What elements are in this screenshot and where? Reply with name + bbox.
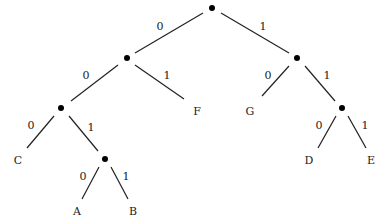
edge-bit-label: 0 xyxy=(28,119,35,132)
edge-bit-label: 1 xyxy=(260,20,267,33)
internal-node xyxy=(339,105,345,111)
tree-edge xyxy=(135,65,184,99)
edge-bit-label: 0 xyxy=(265,69,272,82)
edge-bit-label: 0 xyxy=(316,119,323,132)
edge-bit-label: 1 xyxy=(88,121,95,134)
leaf-label-C: C xyxy=(14,154,22,167)
internal-node xyxy=(209,5,215,11)
tree-edge xyxy=(71,65,118,101)
internal-node xyxy=(294,55,300,61)
tree-edge xyxy=(305,66,335,101)
leaf-label-D: D xyxy=(305,154,314,167)
edge-bit-label: 0 xyxy=(157,20,164,33)
internal-node xyxy=(102,156,108,162)
internal-node xyxy=(124,55,130,61)
internal-node xyxy=(58,105,64,111)
leaf-label-F: F xyxy=(193,105,201,118)
huffman-tree-diagram: 010101010101FGCDEAB xyxy=(0,0,380,223)
leaf-label-E: E xyxy=(367,154,375,167)
edge-bit-label: 1 xyxy=(123,170,130,183)
leaf-label-A: A xyxy=(72,205,82,218)
tree-svg: 010101010101FGCDEAB xyxy=(0,0,380,223)
leaf-label-G: G xyxy=(246,105,255,118)
edge-bit-label: 0 xyxy=(83,69,90,82)
edge-bit-label: 1 xyxy=(324,69,331,82)
edge-bit-label: 1 xyxy=(362,119,369,132)
tree-edge xyxy=(135,13,203,53)
edge-bit-label: 0 xyxy=(80,170,87,183)
leaf-label-B: B xyxy=(129,205,137,218)
tree-edge xyxy=(221,13,289,53)
edge-bit-label: 1 xyxy=(164,69,171,82)
